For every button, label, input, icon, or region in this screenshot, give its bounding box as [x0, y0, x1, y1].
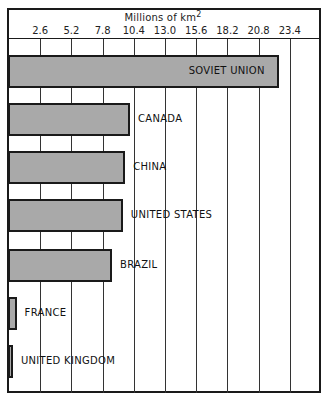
x-tick-label: 18.2	[216, 25, 238, 36]
x-tick-label: 13.0	[154, 25, 176, 36]
bar-label: BRAZIL	[120, 259, 157, 270]
bar-label: FRANCE	[25, 307, 67, 318]
x-tick-label: 10.4	[123, 25, 145, 36]
x-tick-label: 15.6	[185, 25, 207, 36]
x-tick-label: 20.8	[247, 25, 269, 36]
bar	[8, 345, 13, 378]
bar-label: UNITED STATES	[131, 209, 212, 220]
x-axis-line	[7, 38, 321, 39]
bar	[8, 249, 112, 282]
bar	[8, 297, 17, 330]
x-axis-title: Millions of km2	[0, 10, 326, 23]
x-tick-label: 5.2	[63, 25, 79, 36]
x-tick-label: 7.8	[95, 25, 111, 36]
bar	[8, 151, 125, 184]
bar-label: CANADA	[138, 113, 182, 124]
x-tick-label: 23.4	[279, 25, 301, 36]
bar	[8, 199, 123, 232]
gridline	[290, 39, 291, 393]
bar-label: SOVIET UNION	[189, 65, 265, 76]
bar-label: UNITED KINGDOM	[21, 355, 115, 366]
bar	[8, 103, 130, 136]
gridline	[259, 39, 260, 393]
gridline	[227, 39, 228, 393]
bar-label: CHINA	[133, 161, 166, 172]
x-tick-label: 2.6	[32, 25, 48, 36]
